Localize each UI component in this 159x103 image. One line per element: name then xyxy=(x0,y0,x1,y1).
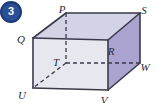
cuboid-diagram: PSQRTWUV 3 xyxy=(0,0,159,103)
vertex-label-U: U xyxy=(18,89,27,101)
vertex-label-V: V xyxy=(101,94,109,103)
vertex-label-S: S xyxy=(141,4,147,16)
vertex-label-W: W xyxy=(140,61,150,73)
cuboid-faces xyxy=(33,13,140,90)
badge-number-text: 3 xyxy=(8,5,14,17)
figure-container: PSQRTWUV 3 xyxy=(0,0,159,103)
vertex-label-T: T xyxy=(53,56,60,68)
front-face xyxy=(33,38,108,90)
vertex-label-R: R xyxy=(107,45,115,57)
vertex-label-P: P xyxy=(58,3,66,15)
vertex-label-Q: Q xyxy=(17,33,25,45)
question-number-badge: 3 xyxy=(0,1,22,23)
